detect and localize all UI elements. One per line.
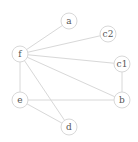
graph-diagram: ac2fc1ebd [0,0,138,142]
node-label: b [119,95,125,105]
node-d: d [61,119,77,135]
nodes: ac2fc1ebd [12,13,130,135]
edge-f-a [20,21,69,54]
node-e: e [12,92,28,108]
edge-f-c2 [20,34,108,54]
node-label: c1 [117,59,128,69]
node-a: a [61,13,77,29]
node-label: c2 [103,29,114,39]
node-c1: c1 [114,56,130,72]
edge-f-c1 [20,54,122,64]
node-f: f [12,46,28,62]
node-c2: c2 [100,26,116,42]
node-label: a [66,16,72,26]
node-b: b [114,92,130,108]
node-label: e [17,95,22,105]
node-label: d [66,122,72,132]
